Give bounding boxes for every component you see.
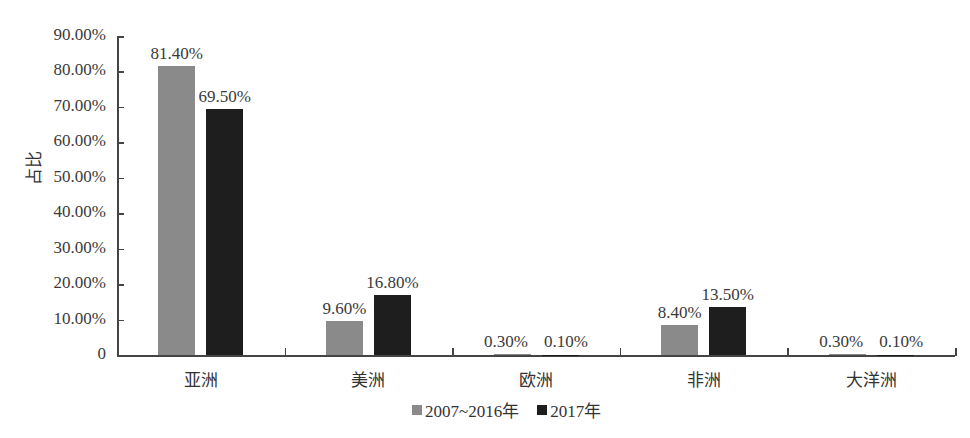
value-label: 0.30% xyxy=(484,332,528,352)
legend-label: 2007~2016年 xyxy=(425,397,519,422)
y-tick-label: 60.00% xyxy=(18,132,106,150)
category-label: 美洲 xyxy=(351,366,385,391)
y-tick-mark xyxy=(117,36,124,38)
value-label: 69.50% xyxy=(199,87,251,107)
y-tick-label: 90.00% xyxy=(18,26,106,44)
value-label: 13.50% xyxy=(701,285,753,305)
bar xyxy=(661,325,698,355)
bar xyxy=(326,321,363,355)
x-axis-line xyxy=(117,355,955,357)
legend-item: 2017年 xyxy=(537,397,601,422)
y-tick-label: 0 xyxy=(18,345,106,363)
value-label: 0.30% xyxy=(819,332,863,352)
x-tick-mark xyxy=(787,348,789,356)
value-label: 0.10% xyxy=(544,332,588,352)
x-tick-mark xyxy=(285,348,287,356)
value-label: 9.60% xyxy=(322,299,366,319)
x-tick-mark xyxy=(955,348,957,356)
y-axis-line xyxy=(117,36,119,356)
bar xyxy=(829,354,866,355)
legend-swatch-icon xyxy=(537,405,547,415)
y-tick-mark xyxy=(117,320,124,322)
legend: 2007~2016年2017年 xyxy=(412,397,601,422)
legend-label: 2017年 xyxy=(550,397,601,422)
bar xyxy=(206,109,243,355)
bar xyxy=(374,295,411,355)
value-label: 0.10% xyxy=(879,332,923,352)
y-tick-label: 70.00% xyxy=(18,97,106,115)
y-tick-mark xyxy=(117,355,124,357)
y-tick-label: 40.00% xyxy=(18,203,106,221)
y-tick-label: 80.00% xyxy=(18,61,106,79)
y-tick-mark xyxy=(117,142,124,144)
y-tick-label: 30.00% xyxy=(18,239,106,257)
y-tick-mark xyxy=(117,71,124,73)
value-label: 16.80% xyxy=(366,273,418,293)
y-tick-label: 20.00% xyxy=(18,274,106,292)
category-label: 欧洲 xyxy=(519,366,553,391)
category-label: 亚洲 xyxy=(184,366,218,391)
y-tick-mark xyxy=(117,249,124,251)
y-tick-mark xyxy=(117,107,124,109)
legend-item: 2007~2016年 xyxy=(412,397,519,422)
y-tick-mark xyxy=(117,284,124,286)
x-tick-mark xyxy=(620,348,622,356)
legend-swatch-icon xyxy=(412,405,422,415)
value-label: 81.40% xyxy=(151,44,203,64)
bar xyxy=(158,66,195,355)
y-tick-label: 50.00% xyxy=(18,168,106,186)
y-tick-label: 10.00% xyxy=(18,310,106,328)
bar xyxy=(494,354,531,355)
y-tick-mark xyxy=(117,213,124,215)
category-label: 大洋洲 xyxy=(846,366,897,391)
value-label: 8.40% xyxy=(658,303,702,323)
category-label: 非洲 xyxy=(687,366,721,391)
y-tick-mark xyxy=(117,178,124,180)
x-tick-mark xyxy=(452,348,454,356)
bar xyxy=(709,307,746,355)
